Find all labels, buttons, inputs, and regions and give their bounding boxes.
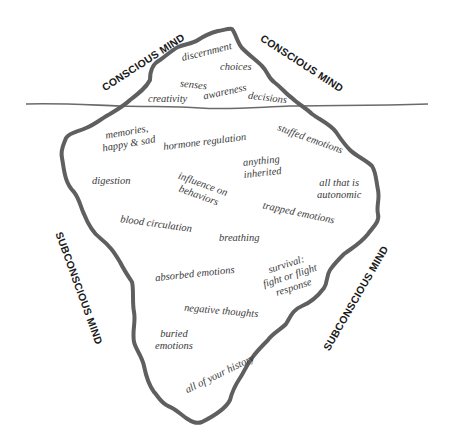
label-all-autonomic: all that is autonomic [317, 177, 361, 201]
waterline [26, 104, 428, 109]
label-digestion: digestion [92, 175, 131, 187]
label-breathing: breathing [219, 232, 259, 244]
label-anything-inherited: anything inherited [242, 153, 282, 181]
label-creativity: creativity [148, 93, 187, 105]
label-choices: choices [220, 61, 252, 73]
iceberg-diagram: CONSCIOUS MIND CONSCIOUS MIND SUBCONSCIO… [0, 0, 453, 448]
label-buried-emotions: buried emotions [155, 328, 193, 352]
